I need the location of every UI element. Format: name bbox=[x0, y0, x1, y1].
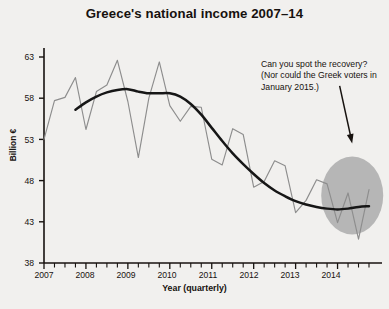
callout-arrow-icon bbox=[340, 86, 354, 144]
plot-area bbox=[0, 0, 389, 309]
chart-figure: Greece's national income 2007–14 Billion… bbox=[0, 0, 389, 309]
axes bbox=[39, 48, 382, 269]
series-raw-quarterly bbox=[44, 60, 369, 239]
